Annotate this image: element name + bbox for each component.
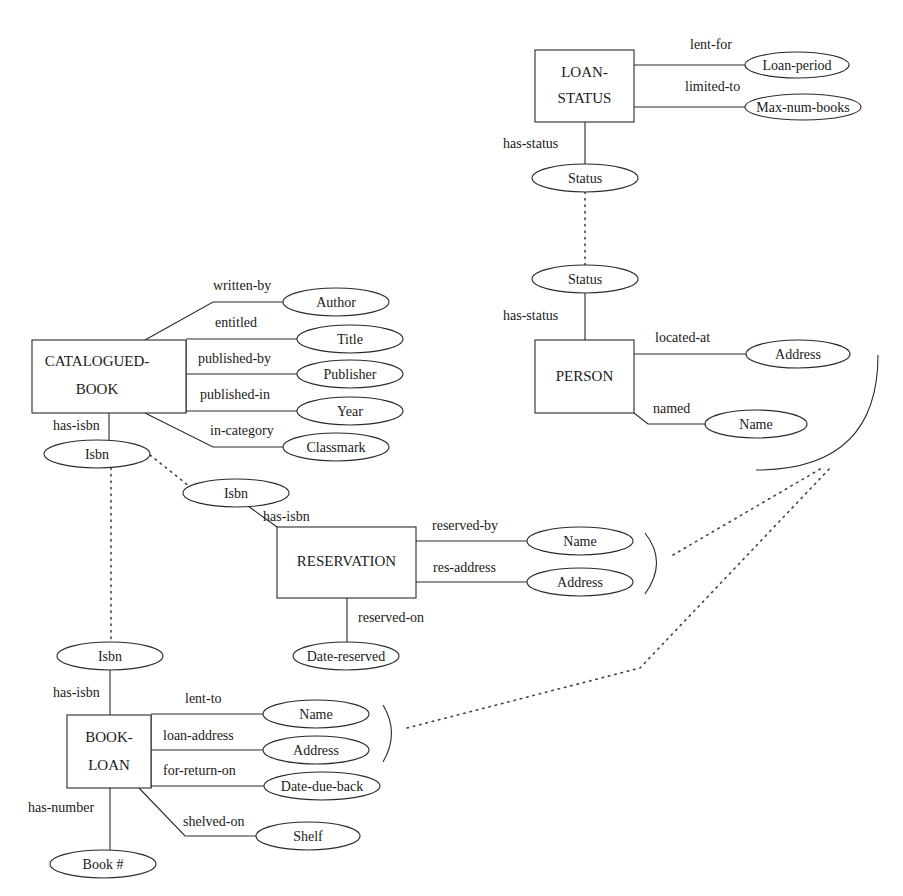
attribute-label: Shelf: [293, 829, 323, 844]
entity-catalogued-book[interactable]: CATALOGUED- BOOK: [32, 340, 186, 413]
entity-label: CATALOGUED-: [45, 353, 150, 369]
attribute-book-number[interactable]: Book #: [50, 850, 156, 878]
attribute-year[interactable]: Year: [297, 397, 403, 425]
entity-label: PERSON: [556, 368, 614, 384]
rel-written-by: written-by: [213, 278, 271, 293]
entity-label: RESERVATION: [297, 553, 397, 569]
attribute-date-reserved[interactable]: Date-reserved: [293, 642, 399, 670]
attribute-label: Max-num-books: [756, 100, 849, 115]
rel-for-return-on: for-return-on: [163, 763, 236, 778]
relationship-labels: lent-for limited-to has-status has-statu…: [28, 37, 740, 829]
attribute-max-num-books[interactable]: Max-num-books: [745, 94, 861, 120]
attribute-res-address[interactable]: Address: [527, 568, 633, 596]
rel-entitled: entitled: [215, 315, 257, 330]
attribute-author[interactable]: Author: [283, 288, 389, 316]
rel-shelved-on: shelved-on: [183, 814, 244, 829]
entity-label: STATUS: [558, 90, 612, 106]
attribute-label: Address: [775, 347, 821, 362]
entity-loan-status[interactable]: LOAN- STATUS: [535, 50, 634, 122]
attribute-status-top[interactable]: Status: [532, 164, 638, 192]
entity-label: BOOK-: [85, 729, 133, 745]
entity-reservation[interactable]: RESERVATION: [277, 527, 416, 598]
rel-lent-for: lent-for: [690, 37, 732, 52]
attribute-label: Isbn: [85, 447, 109, 462]
rel-in-category: in-category: [210, 423, 274, 438]
entity-label: BOOK: [76, 381, 119, 397]
attribute-label: Status: [568, 272, 602, 287]
attribute-isbn-reservation[interactable]: Isbn: [183, 479, 289, 507]
attribute-label: Isbn: [98, 649, 122, 664]
rel-named: named: [653, 401, 690, 416]
rel-reserved-on: reserved-on: [358, 610, 424, 625]
attribute-person-name[interactable]: Name: [705, 410, 807, 438]
attribute-label: Date-due-back: [281, 779, 363, 794]
attribute-loan-period[interactable]: Loan-period: [745, 52, 849, 78]
rel-res-address: res-address: [433, 560, 496, 575]
entity-label: LOAN: [88, 757, 130, 773]
attribute-res-name[interactable]: Name: [527, 527, 633, 555]
attribute-label: Address: [293, 743, 339, 758]
attribute-label: Loan-period: [762, 58, 831, 73]
rel-lent-to: lent-to: [185, 691, 222, 706]
attribute-label: Classmark: [306, 440, 365, 455]
attribute-bl-address[interactable]: Address: [263, 736, 369, 764]
attribute-label: Name: [299, 707, 332, 722]
rel-published-by: published-by: [198, 351, 271, 366]
attribute-status-person[interactable]: Status: [532, 265, 638, 293]
rel-limited-to: limited-to: [685, 79, 740, 94]
rel-has-isbn: has-isbn: [53, 685, 100, 700]
attribute-publisher[interactable]: Publisher: [297, 360, 403, 388]
attribute-date-due-back[interactable]: Date-due-back: [264, 772, 380, 800]
attribute-label: Status: [568, 171, 602, 186]
rel-has-isbn: has-isbn: [53, 418, 100, 433]
attribute-bl-name[interactable]: Name: [263, 700, 369, 728]
attribute-classmark[interactable]: Classmark: [283, 433, 389, 461]
attribute-isbn-catalogued[interactable]: Isbn: [44, 440, 150, 468]
attribute-label: Title: [337, 332, 363, 347]
entity-book-loan[interactable]: BOOK- LOAN: [67, 715, 151, 788]
attribute-label: Name: [739, 417, 772, 432]
entity-person[interactable]: PERSON: [535, 340, 634, 413]
attribute-title[interactable]: Title: [297, 325, 403, 353]
rel-located-at: located-at: [655, 330, 710, 345]
er-diagram: LOAN- STATUS PERSON CATALOGUED- BOOK RES…: [0, 0, 903, 896]
attribute-label: Date-reserved: [307, 649, 386, 664]
attribute-label: Author: [316, 295, 356, 310]
dotted-links: [111, 192, 832, 728]
attribute-label: Year: [337, 404, 363, 419]
attribute-isbn-bookloan[interactable]: Isbn: [57, 642, 163, 670]
rel-loan-address: loan-address: [163, 728, 234, 743]
rel-has-isbn: has-isbn: [263, 509, 310, 524]
rel-has-status: has-status: [503, 308, 558, 323]
rel-reserved-by: reserved-by: [432, 518, 498, 533]
attribute-person-address[interactable]: Address: [746, 340, 850, 368]
rel-published-in: published-in: [200, 387, 270, 402]
entity-label: LOAN-: [561, 64, 608, 80]
attribute-label: Name: [563, 534, 596, 549]
attribute-label: Book #: [83, 857, 124, 872]
attribute-label: Publisher: [324, 367, 377, 382]
rel-has-status: has-status: [503, 136, 558, 151]
attribute-shelf[interactable]: Shelf: [256, 822, 360, 850]
attribute-label: Isbn: [224, 486, 248, 501]
rel-has-number: has-number: [28, 800, 94, 815]
grouping-brackets: [383, 355, 878, 762]
attribute-label: Address: [557, 575, 603, 590]
